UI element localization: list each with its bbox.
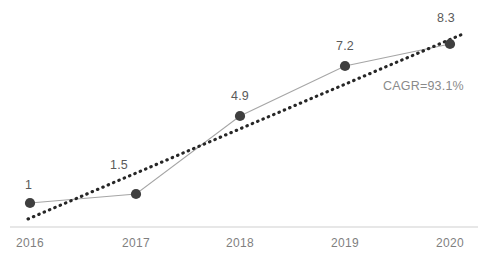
data-point-marker[interactable] bbox=[25, 198, 35, 208]
x-tick-label-2019: 2019 bbox=[315, 236, 375, 250]
x-tick-label-2016: 2016 bbox=[0, 236, 60, 250]
cagr-annotation: CAGR=93.1% bbox=[383, 79, 464, 93]
data-point-marker[interactable] bbox=[131, 189, 141, 199]
data-label-2017: 1.5 bbox=[110, 158, 128, 172]
trendline bbox=[28, 34, 463, 219]
data-label-2020: 8.3 bbox=[437, 11, 455, 25]
x-tick-label-2020: 2020 bbox=[420, 236, 480, 250]
chart-plot-area bbox=[0, 0, 489, 269]
data-label-2016: 1 bbox=[25, 178, 32, 192]
data-label-2019: 7.2 bbox=[336, 39, 354, 53]
data-label-2018: 4.9 bbox=[231, 89, 249, 103]
data-point-marker[interactable] bbox=[445, 39, 455, 49]
data-point-marker[interactable] bbox=[235, 111, 245, 121]
x-tick-label-2018: 2018 bbox=[210, 236, 270, 250]
line-chart: 1 1.5 4.9 7.2 8.3 CAGR=93.1% 2016 2017 2… bbox=[0, 0, 489, 269]
data-point-marker[interactable] bbox=[340, 61, 350, 71]
x-tick-label-2017: 2017 bbox=[106, 236, 166, 250]
